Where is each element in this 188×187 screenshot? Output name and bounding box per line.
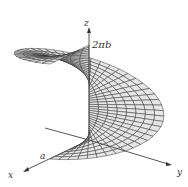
surface-mesh-cell	[89, 102, 98, 105]
x-axis-label: x	[8, 170, 13, 180]
height-label: 2πb	[91, 39, 111, 50]
surface-mesh-cell	[98, 102, 108, 105]
z-axis-label: z	[83, 18, 89, 28]
surface-mesh-cell	[115, 101, 125, 105]
surface-mesh-cell	[124, 101, 135, 105]
surface-mesh-cell	[107, 101, 117, 104]
y-axis-label: y	[176, 167, 183, 177]
surface-mesh-cell	[114, 97, 124, 101]
helicoid-diagram: z x y a 2πb	[0, 0, 188, 187]
y-axis-back	[45, 128, 89, 140]
y-axis-arrowhead	[166, 162, 172, 166]
surface-mesh-cell	[144, 105, 155, 110]
radius-label: a	[40, 151, 45, 161]
x-axis-arrowhead	[23, 167, 29, 172]
